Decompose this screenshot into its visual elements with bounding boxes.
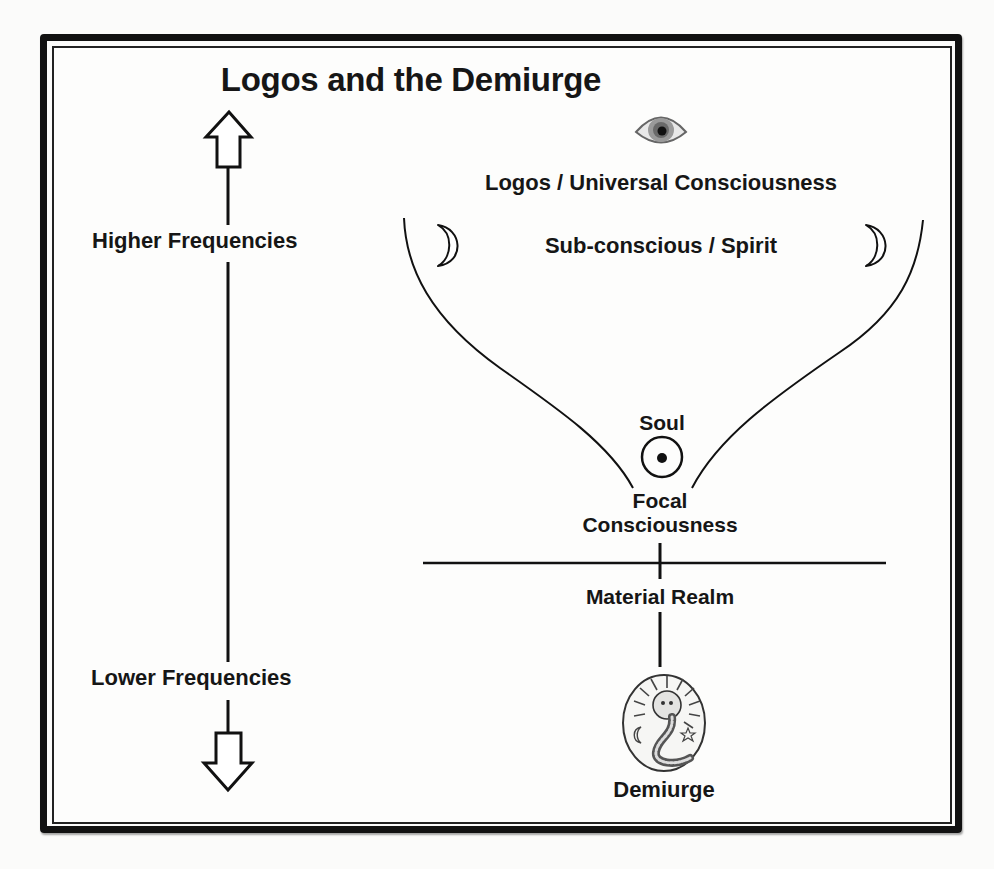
funnel-left-curve: [404, 218, 633, 488]
demiurge-label: Demiurge: [564, 778, 764, 802]
soul-circumpunct-icon: [642, 437, 682, 477]
up-arrow-icon: [206, 112, 251, 167]
soul-label: Soul: [612, 411, 712, 434]
crescent-moon-icon-right: [866, 225, 886, 266]
demiurge-emblem-icon: [623, 675, 705, 771]
lower-frequencies-label: Lower Frequencies: [91, 666, 292, 690]
crescent-moon-icon-left: [438, 225, 458, 266]
logos-label: Logos / Universal Consciousness: [421, 171, 901, 195]
eye-icon: [636, 118, 686, 143]
subconscious-label: Sub-conscious / Spirit: [496, 234, 826, 258]
diagram-title: Logos and the Demiurge: [0, 62, 908, 98]
funnel-right-curve: [692, 220, 923, 488]
diagram-canvas: [0, 0, 994, 869]
material-realm-label: Material Realm: [540, 585, 780, 608]
focal-label-line1: Focal: [560, 489, 760, 512]
focal-label-line2: Consciousness: [560, 513, 760, 536]
down-arrow-icon: [204, 733, 252, 790]
higher-frequencies-label: Higher Frequencies: [92, 229, 297, 253]
